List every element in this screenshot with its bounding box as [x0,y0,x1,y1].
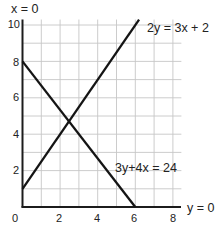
y-tick-label: 8 [13,56,19,68]
y-axis-equation-label: x = 0 [11,2,38,16]
line1-equation-label: 2y = 3x + 2 [147,21,209,35]
line2-equation-label: 3y+4x = 24 [115,161,177,175]
x-tick-label: 0 [12,212,18,224]
x-tick-label: 6 [131,212,137,224]
y-tick-label: 4 [13,128,19,140]
x-tick-label: 8 [170,212,176,224]
x-axis-equation-label: y = 0 [187,201,214,215]
y-tick-label: 6 [13,91,19,103]
x-tick-label: 2 [56,212,62,224]
y-tick-label: 10 [8,18,20,30]
y-tick-label: 2 [13,164,19,176]
chart: x = 0 y = 0 2y = 3x + 2 3y+4x = 24 2 4 6… [0,0,222,236]
x-tick-label: 4 [94,212,100,224]
grid [23,20,182,207]
series-group [23,20,140,207]
